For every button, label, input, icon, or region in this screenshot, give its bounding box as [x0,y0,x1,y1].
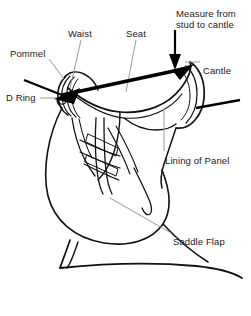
stirrup-leather-front [95,118,103,194]
stirrup-leather-back [104,118,112,194]
label-saddle-flap: Saddle Flap [173,236,225,247]
label-pommel: Pommel [10,48,45,59]
label-d-ring: D Ring [6,92,36,103]
label-seat: Seat [126,28,146,39]
seat-inner-curve [70,92,182,118]
leader-saddle-flap [110,198,171,233]
stud-arrow-head [169,54,181,70]
flap-left-edge-outer [60,240,70,268]
cantle-inner-edge [186,66,197,123]
leader-waist [70,40,81,88]
label-cantle: Cantle [203,65,231,76]
leader-pommel [49,59,64,79]
label-measure-from-stud-to-cantle: Measure from stud to cantle [176,8,236,30]
saddle-diagram: Measure from stud to cantle Waist Seat P… [0,0,251,316]
flap-bottom-long-edge [60,264,242,278]
panel-lining-underside [124,118,176,130]
cantle-edge-detail [181,70,190,120]
label-waist: Waist [68,28,92,39]
label-lining-of-panel: Lining of Panel [165,155,229,166]
hanging-strap [134,168,152,215]
leader-seat [126,40,136,92]
